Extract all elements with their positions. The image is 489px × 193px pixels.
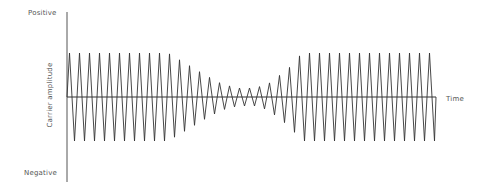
y-axis-label: Carrier amplitude <box>46 63 54 128</box>
positive-label: Positive <box>28 9 57 17</box>
negative-label: Negative <box>24 169 57 177</box>
am-waveform-diagram <box>0 0 489 193</box>
x-axis-label: Time <box>446 95 464 103</box>
